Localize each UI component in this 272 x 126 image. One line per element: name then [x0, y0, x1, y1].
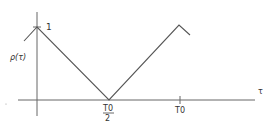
rho-curve [24, 25, 190, 100]
period-label: T0 [174, 106, 185, 115]
half-period-denominator: 2 [105, 114, 110, 123]
y-axis-label: ρ(τ) [10, 53, 26, 62]
x-axis-label: τ [258, 87, 263, 96]
scan-speck [5, 103, 6, 104]
peak-label: 1 [46, 22, 52, 32]
autocorrelation-diagram: 1 ρ(τ) τ T0 2 T0 [0, 0, 272, 126]
half-period-numerator: T0 [102, 104, 113, 113]
